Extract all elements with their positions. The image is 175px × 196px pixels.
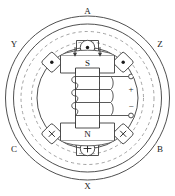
label-terminal-negative: −	[128, 101, 133, 111]
label-B: B	[157, 144, 163, 154]
diagram-canvas: A Z B X C Y S N + −	[0, 0, 175, 196]
terminal-negative-node	[129, 113, 134, 118]
label-rotor-south-pole: S	[85, 58, 90, 68]
slot-A-dot-icon	[86, 46, 89, 49]
slot-Y-dot-icon	[50, 61, 53, 64]
label-X: X	[84, 181, 91, 191]
slot-Z	[112, 51, 133, 72]
machine-cross-section-diagram: A Z B X C Y S N + −	[0, 0, 175, 196]
label-Y: Y	[11, 39, 18, 49]
label-rotor-north-pole: N	[84, 129, 91, 139]
label-A: A	[84, 6, 91, 16]
slot-C	[41, 123, 62, 144]
label-Z: Z	[157, 39, 163, 49]
slot-Z-dot-icon	[122, 61, 125, 64]
label-C: C	[11, 144, 17, 154]
label-terminal-positive: +	[128, 84, 133, 94]
field-coil-winding	[72, 77, 113, 116]
slot-B	[112, 123, 133, 144]
